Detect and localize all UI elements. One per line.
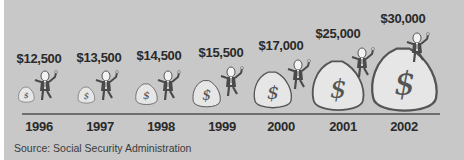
year-label-2000: 2000 bbox=[267, 119, 295, 134]
money-bag-icon-2001 bbox=[313, 48, 375, 111]
pictograph-chart: $12,500 $13,500 $14,500 $15,500 $17,000 … bbox=[4, 0, 464, 160]
money-bag-figures: $ bbox=[4, 0, 464, 116]
source-note: Source: Social Security Administration bbox=[14, 142, 191, 154]
money-bag-icon-1996 bbox=[19, 71, 58, 103]
year-label-2001: 2001 bbox=[329, 119, 357, 134]
year-label-1996: 1996 bbox=[25, 119, 53, 134]
money-bag-icon-1999 bbox=[193, 67, 243, 107]
money-bag-icon-1998 bbox=[136, 71, 181, 105]
year-label-1999: 1999 bbox=[208, 119, 236, 134]
year-label-1997: 1997 bbox=[86, 119, 114, 134]
money-bag-icon-2002 bbox=[372, 33, 436, 111]
year-label-2002: 2002 bbox=[390, 119, 418, 134]
baseline bbox=[22, 113, 440, 115]
money-bag-icon-2000 bbox=[254, 60, 310, 108]
year-label-1998: 1998 bbox=[147, 119, 175, 134]
money-bag-icon-1997 bbox=[78, 71, 118, 103]
